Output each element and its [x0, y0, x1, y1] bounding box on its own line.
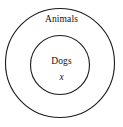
inner-set-label: Dogs: [0, 57, 123, 67]
element-label-x: x: [0, 73, 123, 83]
outer-set-label: Animals: [0, 15, 123, 25]
euler-diagram: Animals Dogs x: [0, 0, 123, 127]
